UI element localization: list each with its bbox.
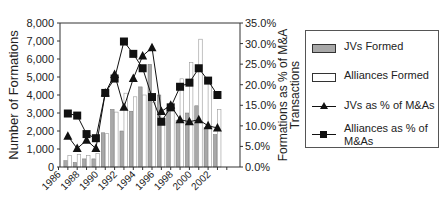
x-axis: 198619881990199219941996199820002002	[39, 167, 240, 192]
svg-text:1986: 1986	[39, 168, 63, 192]
svg-text:7,000: 7,000	[26, 35, 54, 47]
legend-label: Alliances as % of	[344, 122, 428, 134]
svg-text:35.0%: 35.0%	[245, 17, 276, 29]
right-axis: 0.0%5.0%10.0%15.0%20.0%25.0%30.0%35.0%	[240, 17, 276, 173]
legend-label: M&As	[344, 135, 373, 147]
legend: JVs Formed Alliances Formed JVs as % of …	[305, 30, 439, 148]
legend-label: JVs as % of M&As	[344, 99, 434, 111]
jv-bar-swatch-icon	[312, 44, 336, 53]
svg-text:1998: 1998	[152, 168, 176, 192]
svg-text:5.0%: 5.0%	[245, 140, 270, 152]
svg-text:30.0%: 30.0%	[245, 38, 276, 50]
svg-text:2000: 2000	[170, 168, 194, 192]
svg-text:4,000: 4,000	[26, 89, 54, 101]
square-marker-line-icon	[312, 134, 336, 135]
svg-text:2,000: 2,000	[26, 125, 54, 137]
svg-text:25.0%: 25.0%	[245, 58, 276, 70]
alliance-bar-swatch-icon	[312, 73, 336, 82]
svg-text:2002: 2002	[189, 168, 213, 192]
svg-text:6,000: 6,000	[26, 53, 54, 65]
svg-text:3,000: 3,000	[26, 107, 54, 119]
svg-text:1992: 1992	[96, 168, 120, 192]
svg-text:0.0%: 0.0%	[245, 161, 270, 173]
svg-text:20.0%: 20.0%	[245, 79, 276, 91]
triangle-marker-line-icon	[312, 106, 336, 107]
legend-label: JVs Formed	[344, 40, 403, 52]
svg-text:10.0%: 10.0%	[245, 120, 276, 132]
svg-text:1994: 1994	[114, 168, 138, 192]
svg-text:15.0%: 15.0%	[245, 99, 276, 111]
svg-text:5,000: 5,000	[26, 71, 54, 83]
legend-label: Alliances Formed	[344, 69, 429, 81]
svg-text:1988: 1988	[58, 168, 82, 192]
svg-text:1996: 1996	[133, 168, 157, 192]
svg-text:8,000: 8,000	[26, 17, 54, 29]
svg-text:1990: 1990	[77, 168, 101, 192]
y-axis-label: Number of Formations	[6, 30, 21, 160]
combo-chart: 01,0002,0003,0004,0005,0006,0007,0008,00…	[0, 0, 300, 211]
y2-axis-label-line2: Transactions	[288, 61, 300, 129]
svg-text:1,000: 1,000	[26, 143, 54, 155]
